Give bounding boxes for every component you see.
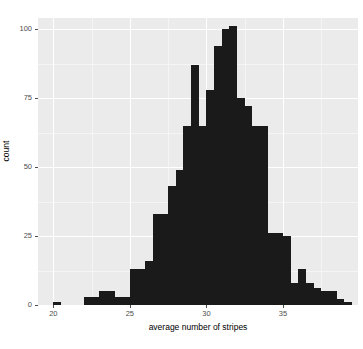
x-tick-label: 30 (191, 309, 221, 319)
x-tick-label: 20 (38, 309, 68, 319)
y-tick-mark (35, 167, 38, 168)
histogram-bar (115, 297, 123, 305)
histogram-bar (138, 269, 146, 305)
histogram-bar (84, 297, 92, 305)
y-tick-mark (35, 236, 38, 237)
histogram-bar (229, 26, 237, 305)
histogram-bar (214, 46, 222, 305)
histogram-bar (53, 302, 61, 305)
histogram-bar (107, 291, 115, 305)
x-axis-label: average number of stripes (38, 322, 358, 332)
histogram-bar (122, 297, 130, 305)
histogram-bar (245, 106, 253, 305)
histogram-bar (183, 126, 191, 305)
histogram-bar (260, 126, 268, 305)
histogram-figure: average number of stripes count 20253035… (0, 0, 363, 349)
histogram-bar (99, 291, 107, 305)
histogram-bar (222, 29, 230, 305)
histogram-bar (145, 261, 153, 305)
histogram-bar (237, 98, 245, 305)
histogram-bar (337, 299, 345, 305)
gridline-major-vertical (53, 18, 54, 305)
histogram-bar (92, 297, 100, 305)
histogram-bar (298, 269, 306, 305)
y-tick-mark (35, 29, 38, 30)
histogram-bar (176, 170, 184, 305)
y-tick-label: 25 (0, 231, 32, 241)
y-tick-label: 0 (0, 300, 32, 310)
histogram-bar (291, 283, 299, 305)
gridline-major-vertical (130, 18, 131, 305)
histogram-bar (130, 269, 138, 305)
histogram-bar (283, 236, 291, 305)
histogram-bar (252, 126, 260, 305)
histogram-bar (306, 283, 314, 305)
y-tick-mark (35, 305, 38, 306)
histogram-bar (268, 233, 276, 305)
histogram-bar (191, 65, 199, 305)
histogram-bar (206, 90, 214, 305)
histogram-bar (329, 291, 337, 305)
gridline-minor-vertical (92, 18, 93, 305)
plot-panel (38, 18, 358, 305)
y-tick-label: 100 (0, 24, 32, 34)
x-tick-label: 25 (115, 309, 145, 319)
x-tick-mark (283, 305, 284, 308)
histogram-bar (321, 291, 329, 305)
y-tick-label: 50 (0, 162, 32, 172)
x-tick-label: 35 (268, 309, 298, 319)
y-tick-label: 75 (0, 93, 32, 103)
histogram-bar (168, 186, 176, 305)
x-tick-mark (206, 305, 207, 308)
gridline-major-horizontal (38, 29, 358, 30)
histogram-bar (153, 214, 161, 305)
histogram-bar (160, 214, 168, 305)
gridline-minor-vertical (321, 18, 322, 305)
y-tick-mark (35, 98, 38, 99)
histogram-bar (199, 126, 207, 305)
x-tick-mark (53, 305, 54, 308)
histogram-bar (344, 302, 352, 305)
histogram-bar (314, 288, 322, 305)
x-tick-mark (130, 305, 131, 308)
histogram-bar (275, 233, 283, 305)
